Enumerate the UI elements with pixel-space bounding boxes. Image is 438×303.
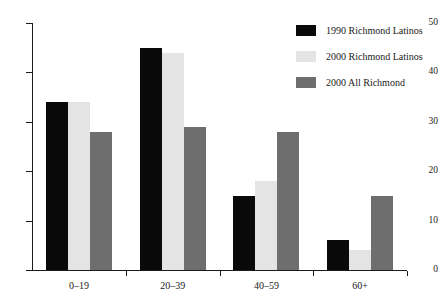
x-axis-tick xyxy=(126,271,127,276)
x-axis-category-label: 60+ xyxy=(313,280,407,291)
legend-item: 2000 Richmond Latinos xyxy=(296,48,423,65)
x-axis-tick xyxy=(220,271,221,276)
x-axis-category-label: 20–39 xyxy=(126,280,220,291)
bar xyxy=(327,240,349,270)
legend-color-swatch xyxy=(296,25,316,36)
y-axis-tick xyxy=(26,270,32,271)
x-axis-category-label: 0–19 xyxy=(32,280,126,291)
legend-item-label: 2000 All Richmond xyxy=(326,77,405,88)
x-axis-category-label: 40–59 xyxy=(220,280,314,291)
bar xyxy=(46,102,68,270)
bar xyxy=(140,48,162,270)
y-axis-tick-label: 10 xyxy=(416,216,438,226)
y-axis-tick-label: 30 xyxy=(416,117,438,127)
bar xyxy=(184,127,206,270)
y-axis-tick xyxy=(26,221,32,222)
y-axis-tick xyxy=(26,72,32,73)
legend-color-swatch xyxy=(296,77,316,88)
bar xyxy=(371,196,393,270)
bar xyxy=(233,196,255,270)
y-axis-tick xyxy=(26,171,32,172)
bar xyxy=(349,250,371,270)
y-axis-tick-label: 20 xyxy=(416,166,438,176)
legend-item-label: 2000 Richmond Latinos xyxy=(326,51,423,62)
legend-item: 1990 Richmond Latinos xyxy=(296,22,423,39)
bar xyxy=(162,53,184,270)
x-axis-tick xyxy=(313,271,314,276)
y-axis-line xyxy=(32,23,33,271)
y-axis-tick xyxy=(26,23,32,24)
legend-color-swatch xyxy=(296,51,316,62)
legend-item: 2000 All Richmond xyxy=(296,74,423,91)
bar-chart: 01020304050 0–1920–3940–5960+ 1990 Richm… xyxy=(0,0,438,303)
bar xyxy=(68,102,90,270)
bar xyxy=(90,132,112,270)
y-axis-tick-label: 0 xyxy=(416,265,438,275)
legend-item-label: 1990 Richmond Latinos xyxy=(326,25,423,36)
bar xyxy=(277,132,299,270)
chart-legend: 1990 Richmond Latinos2000 Richmond Latin… xyxy=(296,22,423,100)
x-axis-tick xyxy=(407,271,408,276)
bar xyxy=(255,181,277,270)
y-axis-tick xyxy=(26,122,32,123)
